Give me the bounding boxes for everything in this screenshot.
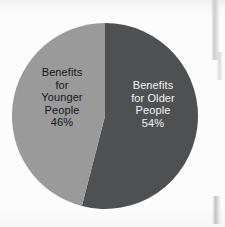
pie-slice-label-younger: Benefits for Younger People 46% xyxy=(24,66,100,129)
pie-chart: Benefits for Younger People 46% Benefits… xyxy=(0,0,225,227)
pie-slice-label-older: Benefits for Older People 54% xyxy=(116,79,190,129)
scanned-pie-chart-page: Benefits for Younger People 46% Benefits… xyxy=(0,0,225,227)
